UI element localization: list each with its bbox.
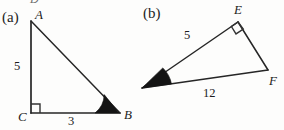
geometry-figure: D (a) A B C 5 3 (b) E F 5 12 xyxy=(0,0,284,130)
vertex-label-c: C xyxy=(18,110,27,123)
triangle-abc-group xyxy=(31,21,120,113)
triangle-def-group xyxy=(142,22,268,88)
vertex-label-a: A xyxy=(35,8,43,21)
side-length-df: 12 xyxy=(203,87,216,100)
panel-tag-a: (a) xyxy=(2,10,19,25)
vertex-label-f: F xyxy=(269,74,277,87)
side-length-ac: 5 xyxy=(14,60,20,73)
vertex-label-e: E xyxy=(234,3,242,16)
vertex-label-b: B xyxy=(124,108,132,121)
clipped-glyph-above: D xyxy=(30,0,39,5)
angle-marker-b xyxy=(95,95,119,113)
right-angle-mark-c xyxy=(31,104,40,113)
panel-tag-b: (b) xyxy=(143,6,161,21)
side-length-cb: 3 xyxy=(68,115,74,128)
side-length-de: 5 xyxy=(184,29,190,42)
